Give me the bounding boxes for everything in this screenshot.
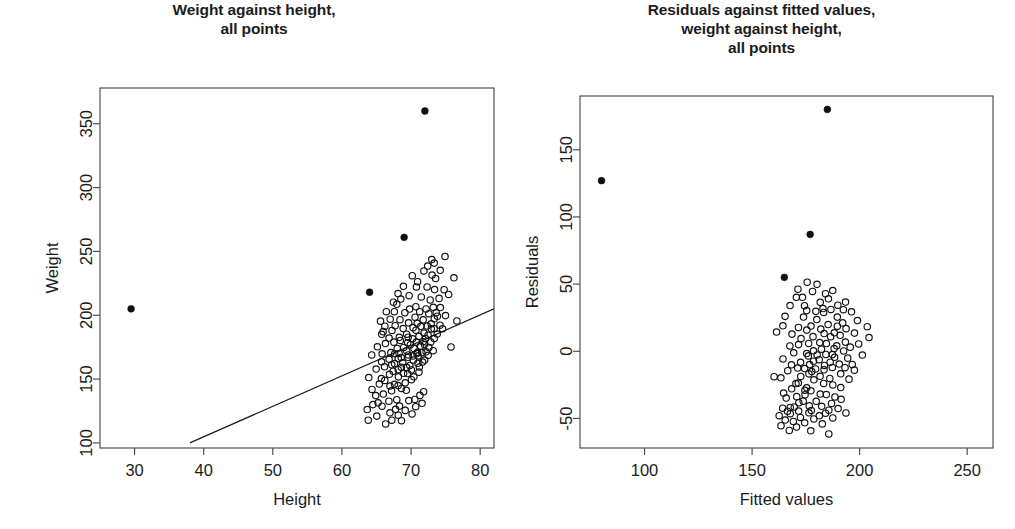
data-point (382, 421, 388, 427)
outlier-point (824, 106, 831, 113)
data-point (817, 299, 823, 305)
data-point (406, 306, 412, 312)
data-point (402, 407, 408, 413)
data-point (816, 413, 822, 419)
data-point (848, 309, 854, 315)
data-point (808, 428, 814, 434)
data-point (787, 302, 793, 308)
data-point (782, 313, 788, 319)
data-point (389, 417, 395, 423)
right-scatter-plot: 100150200250Fitted values-50050100150Res… (508, 0, 1015, 529)
data-point (795, 408, 801, 414)
data-point (830, 382, 836, 388)
data-point (780, 356, 786, 362)
left-scatter-plot: 304050607080Height100150200250300350Weig… (0, 0, 508, 529)
data-point (866, 334, 872, 340)
y-axis-title: Residuals (523, 236, 541, 308)
data-point (785, 367, 791, 373)
data-point (835, 302, 841, 308)
data-point (818, 326, 824, 332)
data-point (369, 352, 375, 358)
data-point (421, 268, 427, 274)
outlier-point (366, 289, 373, 296)
data-point (845, 355, 851, 361)
right-title-line-3: all points (508, 38, 1015, 57)
plot-frame (100, 88, 494, 448)
data-point (373, 366, 379, 372)
y-tick-label: 100 (557, 203, 575, 231)
data-point (810, 333, 816, 339)
x-tick-label: 100 (631, 461, 659, 479)
data-point (437, 267, 443, 273)
data-point (431, 286, 437, 292)
data-point (854, 317, 860, 323)
left-panel-title: Weight against height, all points (0, 0, 508, 38)
y-tick-label: 300 (77, 174, 95, 202)
outlier-point (401, 234, 408, 241)
data-point (827, 375, 833, 381)
data-point (419, 400, 425, 406)
data-point (787, 343, 793, 349)
data-point (417, 392, 423, 398)
x-axis-title: Height (273, 490, 321, 508)
data-point (814, 281, 820, 287)
data-point (795, 286, 801, 292)
outlier-point (128, 305, 135, 312)
data-point (817, 339, 823, 345)
data-point (383, 308, 389, 314)
data-point (820, 380, 826, 386)
data-point (810, 348, 816, 354)
data-point (374, 413, 380, 419)
data-point (808, 323, 814, 329)
data-point (864, 323, 870, 329)
data-point (817, 391, 823, 397)
data-point (843, 325, 849, 331)
data-point (406, 397, 412, 403)
data-point (420, 389, 426, 395)
regression-line (190, 309, 494, 443)
x-tick-label: 80 (471, 461, 489, 479)
data-point (445, 291, 451, 297)
data-point (843, 410, 849, 416)
data-point (836, 361, 842, 367)
data-point (788, 362, 794, 368)
data-point (827, 334, 833, 340)
panel-weight-vs-height: Weight against height, all points 304050… (0, 0, 508, 529)
data-point (846, 376, 852, 382)
data-point (798, 373, 804, 379)
data-point (406, 292, 412, 298)
data-point (404, 370, 410, 376)
data-point (801, 420, 807, 426)
data-point (797, 359, 803, 365)
data-point (830, 287, 836, 293)
data-point (381, 364, 387, 370)
data-point (809, 288, 815, 294)
data-point (424, 284, 430, 290)
data-point (828, 306, 834, 312)
data-point (813, 398, 819, 404)
x-tick-label: 60 (333, 461, 351, 479)
data-point (392, 322, 398, 328)
data-point (436, 295, 442, 301)
data-point (427, 297, 433, 303)
data-point (451, 275, 457, 281)
y-axis-title: Weight (43, 242, 61, 293)
data-point (377, 318, 383, 324)
y-tick-label: 150 (77, 365, 95, 393)
x-tick-label: 70 (402, 461, 420, 479)
data-point (837, 371, 843, 377)
x-tick-label: 150 (738, 461, 766, 479)
data-point (859, 352, 865, 358)
y-tick-label: 250 (77, 238, 95, 266)
data-point (813, 308, 819, 314)
outlier-point (781, 274, 788, 281)
data-point (851, 330, 857, 336)
right-panel-title: Residuals against fitted values, weight … (508, 0, 1015, 57)
data-point (418, 294, 424, 300)
data-point (838, 384, 844, 390)
data-point (842, 365, 848, 371)
data-point (386, 398, 392, 404)
x-tick-label: 250 (953, 461, 981, 479)
data-point (402, 380, 408, 386)
outlier-point (807, 231, 814, 238)
